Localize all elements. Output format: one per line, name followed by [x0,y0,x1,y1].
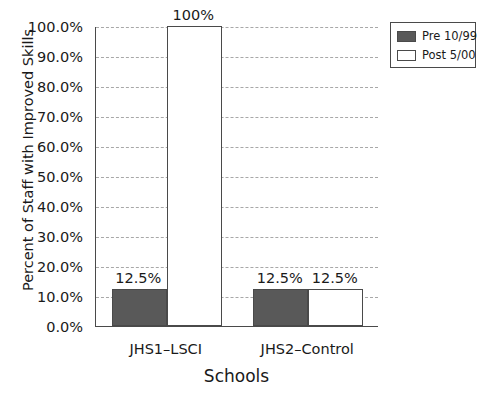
legend-label: Pre 10/99 [422,31,477,43]
y-axis-tick-label: 0.0% [46,320,83,335]
y-axis-tick-label: 70.0% [37,110,83,125]
bar [308,289,363,327]
legend-item: Pre 10/99 [397,28,475,45]
y-axis-tick-labels: 0.0%10.0%20.0%30.0%40.0%50.0%60.0%70.0%8… [0,0,90,397]
y-axis-tick-label: 30.0% [37,230,83,245]
y-axis-tick-label: 20.0% [37,260,83,275]
bar-value-label: 12.5% [312,271,358,286]
y-axis-tick-label: 40.0% [37,200,83,215]
y-axis-tick-label: 90.0% [37,50,83,65]
legend-swatch [397,50,416,61]
bar-value-label: 100% [173,8,214,23]
legend-swatch [397,31,416,42]
x-axis-title: Schools [95,366,378,386]
legend-label: Post 5/00 [422,50,476,62]
y-axis-tick-label: 50.0% [37,170,83,185]
y-axis-tick-label: 60.0% [37,140,83,155]
y-axis-tick-label: 80.0% [37,80,83,95]
bar [167,26,222,326]
x-axis-category-label: JHS1–LSCI [129,341,202,357]
y-axis-tick-label: 100.0% [28,20,83,35]
legend-item: Post 5/00 [397,47,475,64]
x-axis-category-label: JHS2–Control [261,341,354,357]
bar [112,289,167,327]
bar [253,289,308,327]
bar-chart: Percent of Staff with Improved Skills 0.… [0,0,482,397]
bar-value-label: 12.5% [257,271,303,286]
legend: Pre 10/99Post 5/00 [390,22,476,68]
bar-value-label: 12.5% [115,271,161,286]
y-axis-tick-label: 10.0% [37,290,83,305]
